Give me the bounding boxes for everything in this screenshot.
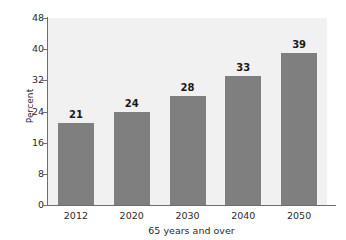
y-axis-tick-mark [42, 49, 47, 50]
bars-layer: 2124283339 [48, 18, 327, 205]
bar-value-label: 39 [275, 39, 323, 50]
bar-group[interactable]: 24 [114, 18, 150, 205]
bar-value-label: 28 [164, 82, 212, 93]
x-axis-tick-label: 2020 [102, 210, 162, 222]
bar-group[interactable]: 28 [170, 18, 206, 205]
y-axis-tick-mark [42, 205, 47, 206]
y-axis-tick-label: 40 [22, 44, 44, 54]
y-axis-tick-label: 8 [22, 169, 44, 179]
bar-chart: Percent 081624324048 2124283339 20122020… [0, 0, 346, 240]
y-axis-tick-label: 48 [22, 13, 44, 23]
y-axis-tick-label: 0 [22, 200, 44, 210]
bar-value-label: 21 [52, 109, 100, 120]
bar[interactable] [225, 76, 261, 205]
bar-value-label: 24 [108, 98, 156, 109]
y-axis-tick-mark [42, 174, 47, 175]
bar-value-label: 33 [219, 62, 267, 73]
bar[interactable] [58, 123, 94, 205]
bar[interactable] [170, 96, 206, 205]
x-axis-tick-label: 2030 [158, 210, 218, 222]
y-axis-tick-label: 24 [22, 107, 44, 117]
bar-group[interactable]: 21 [58, 18, 94, 205]
y-axis-tick-label: 16 [22, 138, 44, 148]
bar[interactable] [114, 112, 150, 206]
y-axis-tick-labels: 081624324048 [22, 0, 44, 240]
y-axis-tick-mark [42, 112, 47, 113]
y-axis-tick-mark [42, 18, 47, 19]
bar-group[interactable]: 39 [281, 18, 317, 205]
x-axis-title: 65 years and over [47, 225, 336, 237]
y-axis-tick-mark [42, 143, 47, 144]
y-axis-tick-label: 32 [22, 75, 44, 85]
bar[interactable] [281, 53, 317, 205]
x-axis-line [47, 205, 336, 206]
x-axis-tick-label: 2040 [213, 210, 273, 222]
x-axis-tick-label: 2050 [269, 210, 329, 222]
x-axis-tick-label: 2012 [46, 210, 106, 222]
y-axis-tick-mark [42, 80, 47, 81]
bar-group[interactable]: 33 [225, 18, 261, 205]
